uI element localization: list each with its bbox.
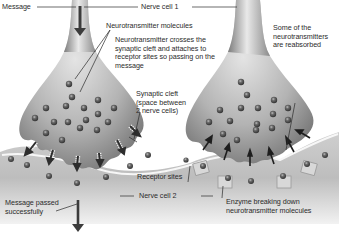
passed-line-2: successfully bbox=[5, 208, 43, 217]
label-receptor-sites: Receptor sites bbox=[137, 173, 182, 182]
cleft-line-3: 2 nerve cells) bbox=[136, 107, 178, 116]
crosses-line-4: message bbox=[115, 62, 144, 71]
label-nerve-cell-2: Nerve cell 2 bbox=[139, 192, 176, 201]
enzyme-line-2: neurotransmitter molecules bbox=[226, 207, 311, 216]
synapse-diagram: Message Nerve cell 1 Neurotransmitter mo… bbox=[0, 0, 339, 235]
label-neurotransmitter-molecules: Neurotransmitter molecules bbox=[106, 22, 193, 31]
label-nerve-cell-1: Nerve cell 1 bbox=[141, 3, 178, 12]
label-message: Message bbox=[2, 3, 31, 12]
reabsorbed-line-3: are reabsorbed bbox=[273, 41, 321, 50]
